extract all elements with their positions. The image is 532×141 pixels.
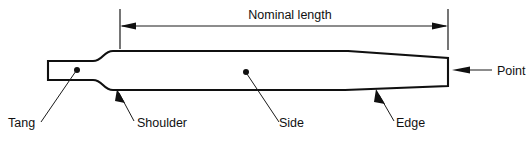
nominal-length-label: Nominal length xyxy=(248,8,331,22)
shoulder-arrowhead xyxy=(115,89,125,103)
shoulder-label: Shoulder xyxy=(137,116,187,130)
dimension-arrowhead-right xyxy=(432,23,448,30)
dimension-arrowhead-left xyxy=(120,23,136,30)
file-nomenclature-diagram: Nominal length Tang Shoulder Side Edge P… xyxy=(0,0,532,141)
side-leader-line xyxy=(247,74,279,122)
side-leader-dot xyxy=(243,69,249,75)
diagram-canvas: Nominal length Tang Shoulder Side Edge P… xyxy=(0,0,532,141)
tang-leader-line xyxy=(41,71,76,122)
side-label: Side xyxy=(279,116,304,130)
edge-arrowhead xyxy=(374,89,385,104)
point-label: Point xyxy=(497,64,526,78)
edge-label: Edge xyxy=(396,116,425,130)
point-arrowhead xyxy=(452,66,470,73)
tang-label: Tang xyxy=(8,116,35,130)
